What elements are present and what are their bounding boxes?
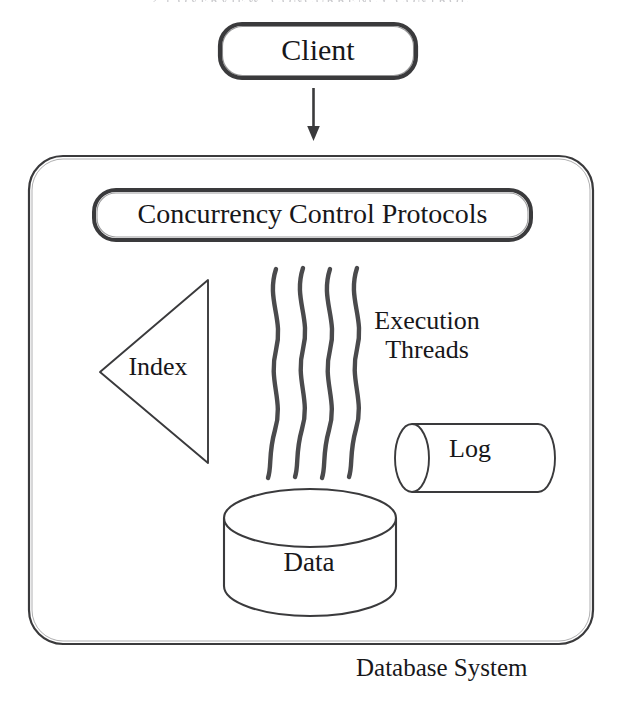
client-to-system-arrow-shape	[307, 88, 320, 141]
execution-threads-label-line2: Threads	[352, 335, 502, 364]
log-label: Log	[420, 434, 520, 463]
data-label: Data	[223, 547, 395, 577]
client-label: Client	[219, 33, 417, 67]
execution-threads-label: ExecutionThreads	[352, 306, 502, 364]
execution-threads-shape	[268, 268, 359, 478]
diagram-artwork	[0, 0, 621, 711]
database-system-caption: Database System	[356, 654, 527, 682]
index-label: Index	[112, 352, 204, 381]
figure-root: 2.1 OVERVIEW: CONCURRENCY CONTROL	[0, 0, 621, 711]
concurrency-control-protocols-label: Concurrency Control Protocols	[93, 198, 532, 229]
running-header: 2.1 OVERVIEW: CONCURRENCY CONTROL	[0, 0, 621, 2]
execution-threads-label-line1: Execution	[374, 306, 479, 335]
